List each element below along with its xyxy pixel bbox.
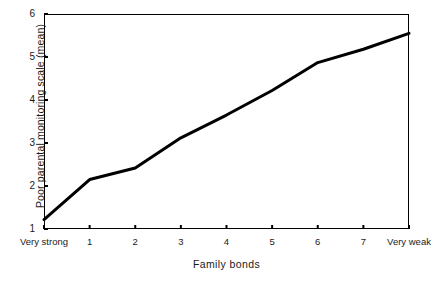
chart-canvas: [0, 0, 438, 281]
x-axis-tick-marks: [44, 225, 409, 229]
y-axis-tick-marks: [44, 14, 48, 229]
data-series-line: [44, 33, 409, 219]
chart-figure: Poor parental monitoring scale (mean) Fa…: [0, 0, 438, 281]
